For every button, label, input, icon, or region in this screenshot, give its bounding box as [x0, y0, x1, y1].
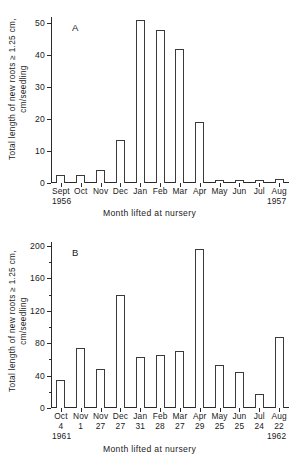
y-tick-200 — [47, 246, 51, 247]
bar-jun-9 — [235, 372, 244, 408]
bar-dec-3 — [116, 295, 125, 408]
y-tick-minor-100 — [49, 327, 52, 328]
bar-dec-3 — [116, 140, 125, 183]
y-tick-10 — [47, 151, 51, 152]
bar-nov-2 — [96, 170, 105, 183]
chart-panel-a: Total length of new roots ≥ 1.25 cm, cm/… — [0, 0, 299, 232]
x-label-month: Aug — [271, 186, 286, 196]
x-label-month: Sept — [52, 186, 70, 196]
x-tick-label-7: Apr29 — [193, 411, 206, 431]
x-tick-label-11: Aug22 — [271, 411, 286, 431]
bar-nov-2 — [96, 369, 105, 408]
x-axis-line-a — [51, 182, 289, 183]
plot-area-a: 01020304050 — [51, 17, 289, 183]
x-label-month: Nov — [73, 411, 88, 421]
y-axis-title-b: Total length of new roots ≥ 1.25 cm, cm/… — [7, 221, 29, 421]
x-tick-label-8: May — [211, 186, 227, 196]
x-tick-label-11: Aug — [271, 186, 286, 196]
x-axis-title-a: Month lifted at nursery — [10, 208, 289, 218]
x-tick-label-3: Dec27 — [113, 411, 128, 431]
x-tick-label-6: Mar — [172, 186, 187, 196]
x-label-day: 27 — [113, 421, 128, 431]
y-axis-line-b — [51, 242, 52, 408]
y-tick-20 — [47, 119, 51, 120]
y-axis-title-a-line1: Total length of new roots ≥ 1.25 cm, — [8, 18, 17, 160]
panel-letter-a: A — [72, 22, 79, 33]
x-tick-label-0: Sept — [52, 186, 70, 196]
y-tick-label-40: 40 — [35, 50, 45, 60]
y-tick-0 — [47, 408, 51, 409]
x-axis-title-b: Month lifted at nursery — [10, 444, 289, 454]
y-tick-80 — [47, 343, 51, 344]
y-tick-minor-180 — [49, 262, 52, 263]
x-label-day: 29 — [193, 421, 206, 431]
x-tick-label-2: Nov — [93, 186, 108, 196]
x-label-day: 25 — [232, 421, 246, 431]
y-tick-40 — [47, 376, 51, 377]
y-axis-title-b-line1: Total length of new roots ≥ 1.25 cm, — [8, 250, 17, 392]
x-tick-label-4: Jan31 — [133, 411, 147, 431]
x-label-month: Mar — [172, 411, 187, 421]
bar-nov-1 — [76, 348, 85, 408]
y-axis-title-b-line2: cm/seedling — [18, 221, 29, 421]
x-tick-label-10: Jul — [254, 186, 265, 196]
x-tick-label-7: Apr — [193, 186, 206, 196]
x-label-day: 4 — [54, 421, 67, 431]
x-tick-label-9: Jun — [232, 186, 246, 196]
x-tick-label-6: Mar27 — [172, 411, 187, 431]
bar-feb-5 — [156, 30, 165, 183]
x-label-month: Dec — [113, 186, 128, 196]
bar-aug-11 — [275, 337, 284, 408]
x-label-month: May — [211, 411, 227, 421]
x-label-month: Nov — [93, 186, 108, 196]
chart-panel-b: Total length of new roots ≥ 1.25 cm, cm/… — [0, 232, 299, 464]
x-label-day: 22 — [271, 421, 286, 431]
panel-letter-b: B — [72, 247, 79, 258]
y-tick-label-160: 160 — [30, 273, 45, 283]
y-axis-title-a-line2: cm/seedling — [18, 0, 29, 189]
x-label-month: Apr — [193, 186, 206, 196]
x-axis-end-year: 1962 — [267, 431, 286, 441]
y-tick-160 — [47, 278, 51, 279]
x-label-month: Jun — [232, 411, 246, 421]
x-label-month: Jul — [254, 411, 265, 421]
x-label-month: Aug — [271, 411, 286, 421]
bar-apr-7 — [195, 249, 204, 408]
y-tick-minor-140 — [49, 295, 52, 296]
x-label-month: Jun — [232, 186, 246, 196]
bar-oct-1 — [76, 175, 85, 183]
bar-jan-4 — [136, 357, 145, 408]
y-axis-title-a: Total length of new roots ≥ 1.25 cm, cm/… — [7, 0, 29, 189]
y-tick-minor-60 — [49, 359, 52, 360]
x-tick-label-1: Oct — [74, 186, 87, 196]
x-tick-label-4: Jan — [133, 186, 147, 196]
y-tick-label-120: 120 — [30, 306, 45, 316]
x-label-month: Dec — [113, 411, 128, 421]
x-tick-label-2: Nov27 — [93, 411, 108, 431]
x-tick-label-5: Feb28 — [153, 411, 168, 431]
x-axis-start-year: 1956 — [52, 196, 71, 206]
x-label-day: 1 — [73, 421, 88, 431]
x-axis-line-b — [51, 407, 289, 408]
x-label-month: May — [211, 186, 227, 196]
figure-root: Total length of new roots ≥ 1.25 cm, cm/… — [0, 0, 299, 464]
x-tick-label-9: Jun25 — [232, 411, 246, 431]
bar-mar-6 — [175, 49, 184, 183]
x-label-month: Apr — [193, 411, 206, 421]
x-label-month: Oct — [74, 186, 87, 196]
y-tick-label-30: 30 — [35, 82, 45, 92]
y-tick-label-40: 40 — [35, 371, 45, 381]
bar-apr-7 — [195, 122, 204, 183]
x-label-day: 25 — [211, 421, 227, 431]
x-tick-label-0: Oct4 — [54, 411, 67, 431]
x-label-month: Jan — [133, 411, 147, 421]
y-tick-label-80: 80 — [35, 338, 45, 348]
x-label-day: 27 — [172, 421, 187, 431]
x-label-day: 28 — [153, 421, 168, 431]
bar-oct-0 — [56, 380, 65, 408]
y-tick-label-20: 20 — [35, 114, 45, 124]
x-axis-start-year: 1961 — [52, 431, 71, 441]
y-tick-label-50: 50 — [35, 18, 45, 28]
x-tick-label-3: Dec — [113, 186, 128, 196]
y-tick-30 — [47, 87, 51, 88]
